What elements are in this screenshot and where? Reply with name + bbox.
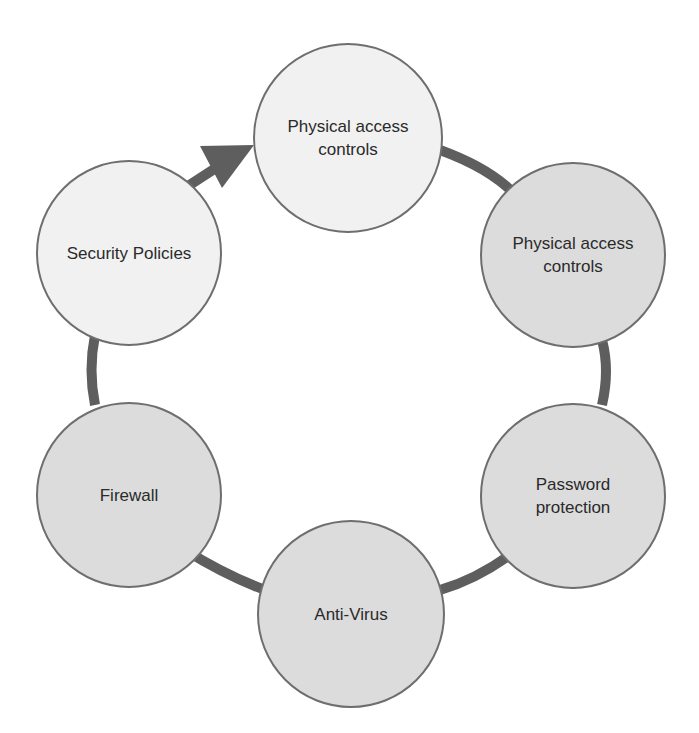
connector-arc — [602, 340, 606, 405]
node-label: Physical access controls — [280, 115, 417, 161]
node-anti-virus: Anti-Virus — [257, 520, 445, 708]
node-label: Anti-Virus — [306, 603, 395, 626]
node-physical-access-controls-top: Physical access controls — [253, 43, 443, 233]
security-cycle-diagram: Physical access controls Physical access… — [0, 0, 699, 733]
node-security-policies: Security Policies — [36, 160, 222, 346]
node-physical-access-controls-right: Physical access controls — [480, 162, 666, 348]
node-password-protection: Password protection — [480, 403, 666, 589]
node-label: Firewall — [92, 484, 167, 507]
node-label: Password protection — [528, 473, 619, 519]
connector-arc — [440, 555, 510, 590]
connector-arc — [92, 335, 96, 405]
node-label: Security Policies — [59, 242, 200, 265]
node-firewall: Firewall — [36, 402, 222, 588]
node-label: Physical access controls — [505, 232, 642, 278]
arrow-head-icon — [200, 145, 254, 188]
